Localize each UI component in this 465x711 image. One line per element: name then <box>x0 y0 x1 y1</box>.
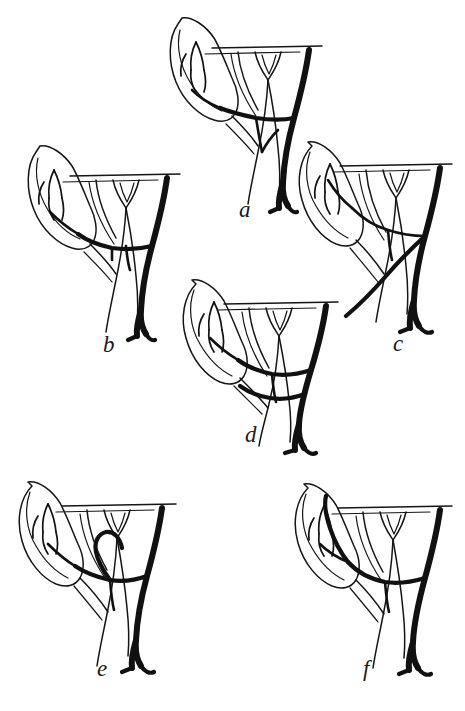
panel-label-e: e <box>97 657 107 680</box>
panel-c-drawing <box>299 142 452 333</box>
panel-e-drawing <box>19 482 176 673</box>
panel-label-f: f <box>363 657 369 680</box>
panel-label-c: c <box>393 332 403 355</box>
panel-f-drawing <box>295 484 452 675</box>
panel-b-drawing <box>28 146 180 341</box>
panel-label-a: a <box>239 198 251 221</box>
panel-label-b: b <box>103 333 115 356</box>
panel-d-drawing <box>183 280 338 454</box>
figure-canvas: a b c d e f <box>0 0 465 711</box>
panel-label-d: d <box>245 423 257 446</box>
